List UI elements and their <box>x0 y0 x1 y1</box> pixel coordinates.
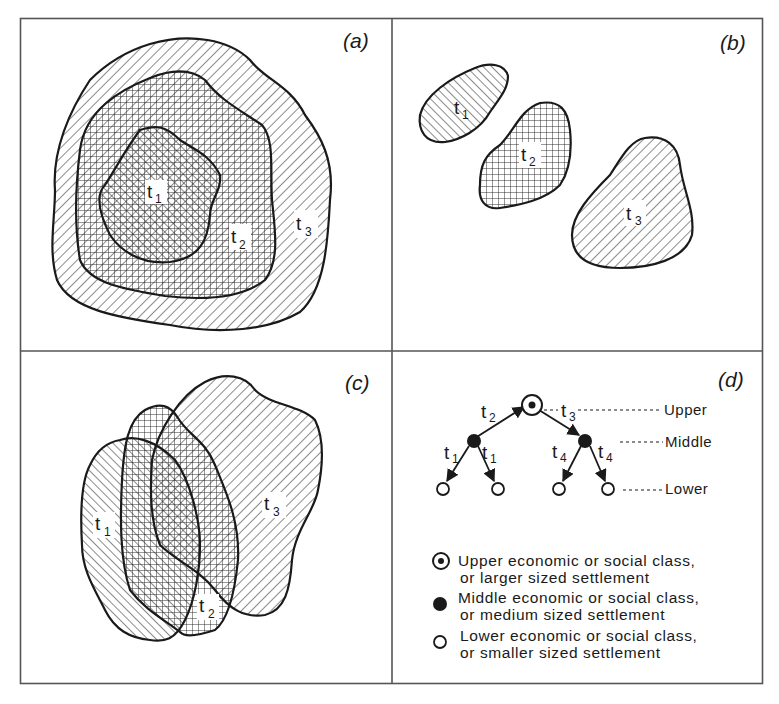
hierarchy-tree: t 2 t 3 t 1 t 1 t 4 t 4 <box>437 395 712 497</box>
svg-text:t: t <box>561 400 567 421</box>
svg-text:Lower economic or social class: Lower economic or social class, <box>460 627 697 644</box>
lower-node-3 <box>553 483 565 495</box>
svg-text:or smaller sized settlement: or smaller sized settlement <box>460 644 661 661</box>
svg-text:t: t <box>482 442 488 463</box>
svg-text:2: 2 <box>489 411 496 425</box>
panel-c-t3-label: t 3 <box>262 492 286 519</box>
panel-c-t2-label: t 2 <box>197 594 219 621</box>
open-circle-icon <box>434 636 446 648</box>
panel-b-label: (b) <box>720 31 746 54</box>
panel-a: (a) t 1 t 2 t 3 <box>52 29 368 330</box>
middle-node-left <box>467 434 481 448</box>
panel-a-t1-label: t 1 <box>145 180 167 206</box>
edge-label-t4-left: t 4 <box>552 441 567 465</box>
panel-c-label: (c) <box>345 371 370 394</box>
edge-label-t4-right: t 4 <box>598 441 613 465</box>
svg-text:t: t <box>552 441 558 462</box>
svg-text:1: 1 <box>104 525 111 539</box>
svg-text:t: t <box>598 441 604 462</box>
circled-dot-icon <box>433 553 449 569</box>
panel-d: (d) t 2 t <box>433 368 744 661</box>
filled-circle-icon <box>433 597 447 611</box>
panel-b-t1-label: t 1 <box>452 96 472 122</box>
edge-label-t1-left: t 1 <box>444 442 459 466</box>
svg-text:3: 3 <box>273 505 280 519</box>
level-middle: Middle <box>665 433 712 450</box>
level-lower: Lower <box>665 480 708 497</box>
legend-item-upper: Upper economic or social class, or large… <box>433 552 695 586</box>
lower-node-2 <box>492 483 504 495</box>
edge-label-t3: t 3 <box>561 400 576 424</box>
panel-d-label: (d) <box>718 368 744 391</box>
svg-text:1: 1 <box>155 192 162 206</box>
svg-text:t: t <box>231 226 237 247</box>
svg-text:3: 3 <box>305 225 312 239</box>
svg-text:4: 4 <box>606 451 613 465</box>
svg-text:2: 2 <box>529 155 536 169</box>
upper-node <box>522 395 542 415</box>
svg-text:1: 1 <box>462 108 469 122</box>
svg-text:t: t <box>626 203 632 224</box>
svg-text:2: 2 <box>239 238 246 252</box>
middle-node-right <box>578 434 592 448</box>
legend: Upper economic or social class, or large… <box>433 552 699 661</box>
panel-a-t2-label: t 2 <box>229 224 251 252</box>
svg-text:Upper economic or social class: Upper economic or social class, <box>458 552 695 569</box>
svg-text:1: 1 <box>452 452 459 466</box>
panel-a-label: (a) <box>343 29 369 52</box>
svg-text:t: t <box>264 493 270 514</box>
panel-c: (c) t 1 t 2 t 3 <box>81 371 369 641</box>
lower-node-1 <box>437 483 449 495</box>
svg-text:t: t <box>199 595 205 616</box>
lower-node-4 <box>602 483 614 495</box>
panel-b: (b) t 1 t 2 t 3 <box>420 31 746 268</box>
edge-label-t1-right: t 1 <box>482 442 497 466</box>
svg-text:t: t <box>444 442 450 463</box>
svg-text:3: 3 <box>635 214 642 228</box>
svg-text:t: t <box>481 401 487 422</box>
svg-text:or larger sized settlement: or larger sized settlement <box>460 569 650 586</box>
panel-b-t2-label: t 2 <box>519 142 541 169</box>
svg-text:t: t <box>454 97 460 118</box>
svg-text:t: t <box>296 213 302 234</box>
svg-text:2: 2 <box>208 607 215 621</box>
panel-a-t3-label: t 3 <box>294 210 318 239</box>
legend-item-lower: Lower economic or social class, or small… <box>434 627 697 661</box>
svg-text:Middle economic or social clas: Middle economic or social class, <box>458 589 699 606</box>
level-upper: Upper <box>664 401 707 418</box>
svg-text:3: 3 <box>569 410 576 424</box>
legend-item-middle: Middle economic or social class, or medi… <box>433 589 699 623</box>
figure: (a) t 1 t 2 t 3 (b) t 1 <box>0 0 779 704</box>
svg-text:t: t <box>521 144 527 165</box>
svg-text:or medium sized settlement: or medium sized settlement <box>460 606 665 623</box>
panel-c-t1-label: t 1 <box>93 512 115 539</box>
panel-b-t3-label: t 3 <box>624 200 646 228</box>
svg-text:t: t <box>95 513 101 534</box>
svg-text:4: 4 <box>560 451 567 465</box>
edge-label-t2: t 2 <box>481 401 496 425</box>
svg-text:1: 1 <box>490 452 497 466</box>
svg-text:t: t <box>147 181 153 202</box>
